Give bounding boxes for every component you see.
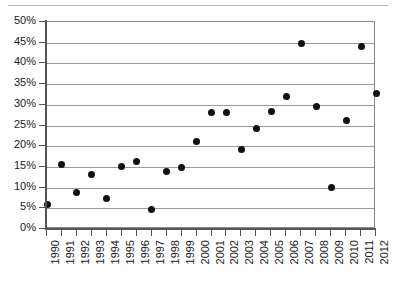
x-tick-2010 <box>345 230 346 236</box>
data-point <box>223 109 230 116</box>
y-axis-label: 35% <box>0 77 36 88</box>
y-axis-label: 30% <box>0 98 36 109</box>
x-tick-1998 <box>166 230 167 236</box>
y-tick-30 <box>39 104 46 105</box>
x-axis-label: 2003 <box>244 240 255 264</box>
x-tick-1996 <box>136 230 137 236</box>
x-tick-1994 <box>106 230 107 236</box>
y-tick-40 <box>39 62 46 63</box>
x-axis-label: 1998 <box>170 240 181 264</box>
x-axis-label: 2012 <box>379 240 390 264</box>
gridline-15 <box>47 167 374 168</box>
x-tick-2011 <box>360 230 361 236</box>
x-tick-2012 <box>375 230 376 236</box>
data-point <box>163 168 170 175</box>
x-axis-label: 2010 <box>349 240 360 264</box>
x-axis-label: 2005 <box>274 240 285 264</box>
gridline-20 <box>47 146 374 147</box>
x-tick-2005 <box>270 230 271 236</box>
gridline-40 <box>47 63 374 64</box>
data-point <box>118 163 125 170</box>
data-point <box>133 158 140 165</box>
x-axis-label: 2009 <box>334 240 345 264</box>
x-tick-1997 <box>151 230 152 236</box>
data-point <box>148 206 155 213</box>
data-point <box>343 117 350 124</box>
x-tick-2009 <box>330 230 331 236</box>
x-axis-label: 2008 <box>319 240 330 264</box>
y-tick-20 <box>39 145 46 146</box>
y-axis-label: 0% <box>0 222 36 233</box>
x-tick-1992 <box>76 230 77 236</box>
scatter-chart: 0%5%10%15%20%25%30%35%40%45%50% 19901991… <box>0 0 393 284</box>
y-tick-5 <box>39 207 46 208</box>
data-point <box>178 164 185 171</box>
gridline-10 <box>47 188 374 189</box>
x-axis-label: 1995 <box>125 240 136 264</box>
data-point <box>268 108 275 115</box>
data-point <box>358 43 365 50</box>
y-axis-label: 45% <box>0 36 36 47</box>
y-tick-0 <box>39 228 46 229</box>
x-axis-label: 2006 <box>289 240 300 264</box>
x-axis-label: 2007 <box>304 240 315 264</box>
y-axis-label: 40% <box>0 56 36 67</box>
data-point <box>193 138 200 145</box>
x-tick-1999 <box>181 230 182 236</box>
x-tick-2004 <box>255 230 256 236</box>
data-point <box>88 171 95 178</box>
data-point <box>238 146 245 153</box>
gridline-35 <box>47 84 374 85</box>
x-axis-label: 1996 <box>140 240 151 264</box>
y-axis-label: 20% <box>0 139 36 150</box>
y-axis-label: 5% <box>0 201 36 212</box>
x-axis-label: 2001 <box>215 240 226 264</box>
y-axis-label: 25% <box>0 119 36 130</box>
x-tick-1995 <box>121 230 122 236</box>
x-tick-2001 <box>211 230 212 236</box>
x-tick-2000 <box>196 230 197 236</box>
plot-area <box>46 21 375 228</box>
y-axis-label: 10% <box>0 181 36 192</box>
x-axis-label: 2000 <box>200 240 211 264</box>
gridline-5 <box>47 208 374 209</box>
x-tick-1993 <box>91 230 92 236</box>
x-axis-label: 2004 <box>259 240 270 264</box>
data-point <box>283 93 290 100</box>
y-tick-45 <box>39 42 46 43</box>
data-point <box>313 103 320 110</box>
x-axis-label: 1993 <box>95 240 106 264</box>
y-tick-15 <box>39 166 46 167</box>
x-axis-label: 1992 <box>80 240 91 264</box>
gridline-25 <box>47 126 374 127</box>
x-tick-2002 <box>225 230 226 236</box>
y-axis-label: 50% <box>0 15 36 26</box>
x-axis-label: 1990 <box>50 240 61 264</box>
x-tick-2003 <box>240 230 241 236</box>
data-point <box>103 195 110 202</box>
x-axis-label: 2002 <box>229 240 240 264</box>
gridline-30 <box>47 105 374 106</box>
x-tick-1990 <box>46 230 47 236</box>
y-axis-label: 15% <box>0 160 36 171</box>
data-point <box>208 109 215 116</box>
page-top-rule <box>8 5 388 6</box>
y-tick-25 <box>39 125 46 126</box>
x-axis-label: 1999 <box>185 240 196 264</box>
gridline-45 <box>47 43 374 44</box>
x-tick-2008 <box>315 230 316 236</box>
x-axis-label: 1991 <box>65 240 76 264</box>
x-tick-2007 <box>300 230 301 236</box>
x-axis-label: 1994 <box>110 240 121 264</box>
data-point <box>253 125 260 132</box>
x-tick-1991 <box>61 230 62 236</box>
data-point <box>298 40 305 47</box>
data-point <box>73 189 80 196</box>
y-tick-10 <box>39 187 46 188</box>
x-tick-2006 <box>285 230 286 236</box>
x-axis-label: 2011 <box>364 240 375 264</box>
y-tick-35 <box>39 83 46 84</box>
data-point <box>328 184 335 191</box>
data-point <box>373 90 380 97</box>
y-tick-50 <box>39 21 46 22</box>
